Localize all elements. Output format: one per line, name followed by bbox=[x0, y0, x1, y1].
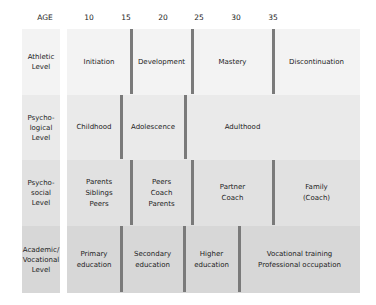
row-body-psychological: ChildhoodAdolescenceAdulthood bbox=[67, 95, 360, 160]
transition-divider bbox=[120, 95, 123, 159]
row-label-psychological: Psycho-logicalLevel bbox=[22, 95, 60, 160]
stage-adulthood: Adulthood bbox=[185, 95, 300, 160]
transition-divider bbox=[272, 160, 275, 225]
transition-divider bbox=[183, 226, 186, 292]
row-body-psychosocial: ParentsSiblingsPeersPeersCoachParentsPar… bbox=[67, 160, 360, 226]
stage-initiation: Initiation bbox=[67, 29, 131, 95]
age-tick-15: 15 bbox=[111, 13, 141, 22]
stage-development: Development bbox=[131, 29, 192, 95]
stage-adolescence: Adolescence bbox=[121, 95, 185, 160]
stage-vocational-training: Vocational trainingProfessional occupati… bbox=[239, 226, 360, 293]
stage-partner: PartnerCoach bbox=[192, 160, 273, 226]
age-tick-35: 35 bbox=[258, 13, 288, 22]
transition-divider bbox=[272, 29, 275, 94]
stage-secondary: Secondaryeducation bbox=[121, 226, 184, 293]
age-tick-20: 20 bbox=[148, 13, 178, 22]
transition-divider bbox=[238, 226, 241, 292]
stage-peers: PeersCoachParents bbox=[131, 160, 192, 226]
stage-discontinuation: Discontinuation bbox=[273, 29, 360, 95]
transition-divider bbox=[184, 95, 187, 159]
transition-divider bbox=[130, 160, 133, 225]
transition-divider bbox=[191, 160, 194, 225]
row-label-athletic: AthleticLevel bbox=[22, 29, 60, 95]
transition-divider bbox=[191, 29, 194, 94]
stage-primary: Primaryeducation bbox=[67, 226, 121, 293]
age-tick-10: 10 bbox=[74, 13, 104, 22]
age-axis-title: AGE bbox=[30, 13, 60, 22]
stage-family: Family(Coach) bbox=[273, 160, 360, 226]
row-body-athletic: InitiationDevelopmentMasteryDiscontinuat… bbox=[67, 29, 360, 95]
stage-childhood: Childhood bbox=[67, 95, 121, 160]
transition-divider bbox=[120, 226, 123, 292]
row-body-academic-vocational: PrimaryeducationSecondaryeducationHigher… bbox=[67, 226, 360, 293]
stage-higher: Highereducation bbox=[184, 226, 239, 293]
row-label-academic-vocational: Academic/VocationalLevel bbox=[22, 226, 60, 293]
row-label-psychosocial: Psycho-socialLevel bbox=[22, 160, 60, 226]
age-tick-25: 25 bbox=[184, 13, 214, 22]
stage-parents: ParentsSiblingsPeers bbox=[67, 160, 131, 226]
stage-mastery: Mastery bbox=[192, 29, 273, 95]
transition-divider bbox=[130, 29, 133, 94]
age-tick-30: 30 bbox=[221, 13, 251, 22]
